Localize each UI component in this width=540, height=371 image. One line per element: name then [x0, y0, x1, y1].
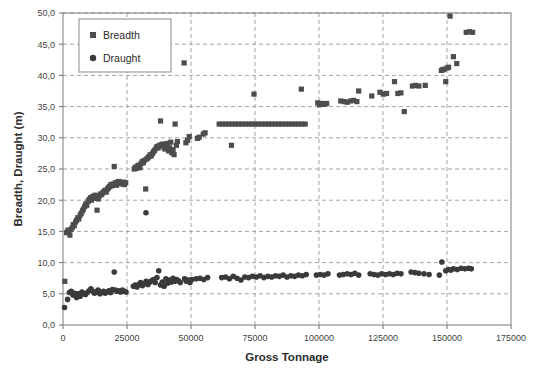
data-point-draught: [143, 210, 149, 216]
y-tick-label: 5,0: [42, 289, 55, 299]
x-tick-label: 75000: [242, 333, 267, 343]
data-point-draught: [398, 271, 404, 277]
y-tick-label: 25,0: [37, 164, 55, 174]
data-point-breadth: [446, 65, 451, 70]
data-point-draught: [416, 270, 422, 276]
data-point-draught: [325, 271, 331, 277]
legend-marker-draught: [90, 55, 96, 61]
x-axis-title: Gross Tonnage: [245, 351, 329, 363]
data-point-draught: [123, 289, 129, 295]
data-point-breadth: [392, 79, 397, 84]
data-point-breadth: [173, 121, 178, 126]
data-point-breadth: [181, 60, 186, 65]
data-point-draught: [156, 268, 162, 274]
y-tick-label: 40,0: [37, 71, 55, 81]
data-point-breadth: [398, 90, 403, 95]
data-point-draught: [62, 305, 68, 311]
data-point-breadth: [175, 139, 180, 144]
data-point-draught: [426, 272, 432, 278]
x-tick-label: 0: [60, 333, 65, 343]
data-point-breadth: [402, 109, 407, 114]
data-point-draught: [111, 269, 117, 275]
data-point-breadth: [369, 93, 374, 98]
data-point-breadth: [451, 54, 456, 59]
data-point-draught: [177, 280, 183, 286]
data-point-breadth: [202, 130, 207, 135]
data-point-draught: [303, 272, 309, 278]
data-point-draught: [421, 271, 427, 277]
x-tick-label: 100000: [304, 333, 334, 343]
x-tick-label: 50000: [178, 333, 203, 343]
data-point-breadth: [324, 101, 329, 106]
data-point-breadth: [384, 91, 389, 96]
data-point-breadth: [112, 164, 117, 169]
data-point-draught: [439, 259, 445, 265]
data-point-breadth: [172, 152, 177, 157]
x-tick-label: 150000: [432, 333, 462, 343]
x-tick-label: 25000: [114, 333, 139, 343]
data-point-breadth: [158, 118, 163, 123]
y-tick-label: 30,0: [37, 133, 55, 143]
data-point-breadth: [303, 121, 308, 126]
y-tick-label: 10,0: [37, 258, 55, 268]
data-point-breadth: [168, 140, 173, 145]
data-point-breadth: [299, 87, 304, 92]
data-point-breadth: [229, 143, 234, 148]
y-tick-label: 15,0: [37, 227, 55, 237]
legend-border: [79, 19, 171, 72]
x-tick-label: 125000: [368, 333, 398, 343]
data-point-breadth: [62, 279, 67, 284]
data-point-breadth: [416, 83, 421, 88]
y-tick-label: 20,0: [37, 196, 55, 206]
data-point-breadth: [187, 134, 192, 139]
data-point-draught: [469, 266, 475, 272]
data-point-draught: [152, 280, 158, 286]
x-axis-tick-labels: 0250005000075000100000125000150000175000: [60, 333, 526, 343]
data-point-breadth: [251, 92, 256, 97]
legend-label: Breadth: [103, 29, 140, 41]
data-point-breadth: [423, 83, 428, 88]
y-tick-label: 45,0: [37, 40, 55, 50]
data-point-breadth: [143, 186, 148, 191]
legend-marker-breadth: [90, 32, 96, 38]
y-tick-label: 50,0: [37, 8, 55, 18]
scatter-chart: 0,05,010,015,020,025,030,035,040,045,050…: [0, 0, 540, 371]
data-point-draught: [437, 272, 443, 278]
data-point-breadth: [447, 14, 452, 19]
data-point-draught: [154, 275, 160, 281]
data-point-breadth: [470, 30, 475, 35]
data-point-breadth: [354, 99, 359, 104]
chart-canvas: 0,05,010,015,020,025,030,035,040,045,050…: [0, 0, 540, 371]
y-axis-title: Breadth, Draught (m): [12, 111, 24, 226]
data-point-breadth: [356, 88, 361, 93]
y-tick-label: 0,0: [42, 320, 55, 330]
data-point-breadth: [443, 79, 448, 84]
series-draught-points: [62, 210, 474, 310]
data-point-draught: [356, 272, 362, 278]
data-point-breadth: [454, 61, 459, 66]
x-tick-label: 175000: [496, 333, 526, 343]
data-point-breadth: [94, 208, 99, 213]
data-point-draught: [65, 297, 71, 303]
data-point-draught: [205, 275, 211, 281]
y-axis-tick-labels: 0,05,010,015,020,025,030,035,040,045,050…: [37, 8, 55, 330]
legend: BreadthDraught: [79, 19, 171, 72]
data-point-breadth: [123, 180, 128, 185]
legend-label: Draught: [103, 52, 140, 64]
data-point-breadth: [67, 233, 72, 238]
y-tick-label: 35,0: [37, 102, 55, 112]
